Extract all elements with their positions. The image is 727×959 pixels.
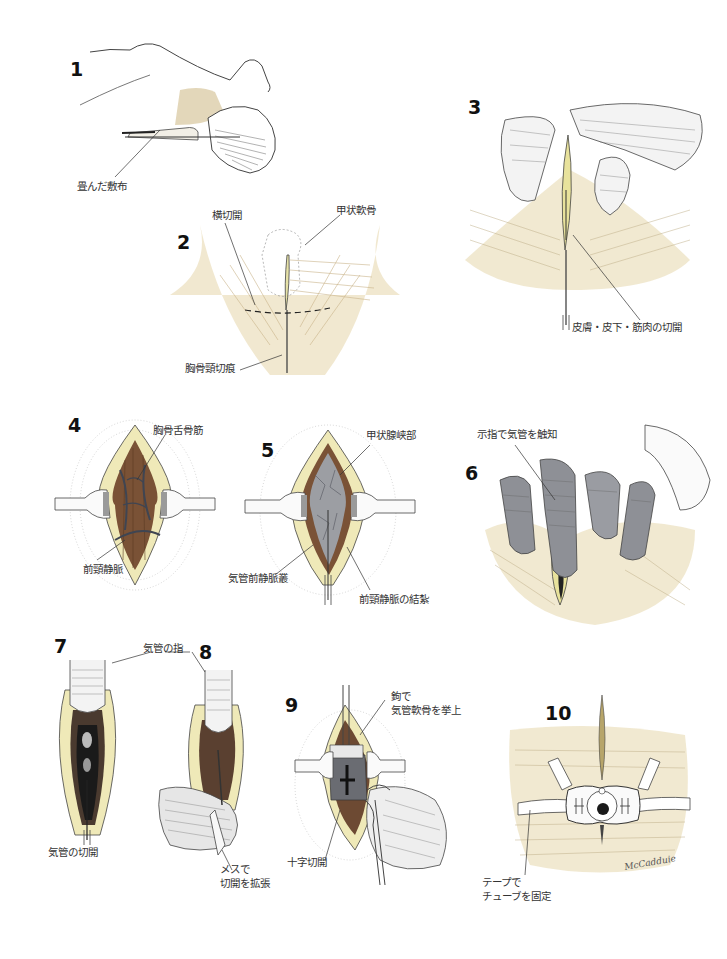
label-lift-tracheal-cartilage: 気管軟骨を挙上 — [391, 704, 461, 718]
label-sternal-notch: 胸骨頸切痕 — [185, 362, 235, 376]
label-extend-incision: 切開を拡張 — [220, 877, 270, 891]
tracheal-incision-illustration — [40, 630, 150, 870]
label-skin-subcutaneous-muscle-incision: 皮膚・皮下・筋肉の切開 — [572, 321, 682, 335]
label-anterior-jugular-vein: 前頸静脈 — [83, 563, 123, 577]
neck-incision-illustration — [160, 195, 430, 385]
sternohyoid-muscle-exposure-illustration — [55, 410, 215, 600]
panel-5: 5 甲状腺峡部 気管前静脈叢 前頸静脈の結紮 — [225, 415, 425, 615]
incision-extension-illustration — [150, 630, 290, 900]
label-thyroid-cartilage: 甲状軟骨 — [336, 204, 376, 218]
patient-position-illustration — [0, 0, 300, 200]
label-thyroid-isthmus: 甲状腺峡部 — [366, 429, 416, 443]
label-cruciate-incision: 十字切開 — [287, 856, 327, 870]
panel-6: 6 示指で気管を触知 — [465, 420, 727, 640]
panel-4: 4 胸骨舌骨筋 前頸静脈 — [55, 410, 215, 600]
label-tape: テープで — [482, 876, 521, 890]
label-folded-sheet: 畳んだ敷布 — [77, 180, 127, 194]
label-anterior-jugular-vein-ligation: 前頸静脈の結紮 — [359, 593, 429, 607]
skin-incision-illustration — [460, 90, 727, 350]
panel-7: 7 気管の切開 — [40, 630, 150, 870]
label-tracheal-finger: 気管の指 — [143, 642, 183, 656]
label-palpate-trachea-with-index-finger: 示指で気管を触知 — [477, 428, 557, 442]
label-sternohyoid-muscle: 胸骨舌骨筋 — [153, 424, 203, 438]
panel-3: 3 皮膚・皮下・筋肉の切開 — [460, 90, 727, 350]
trachea-palpation-illustration — [465, 420, 727, 640]
label-transverse-incision: 横切開 — [212, 209, 242, 223]
label-scalpel: メスで — [220, 863, 250, 877]
panel-1: 1 畳んだ敷布 — [0, 0, 300, 200]
label-hook: 鉤で — [391, 690, 411, 704]
label-tracheal-incision: 気管の切開 — [48, 846, 98, 860]
panel-2: 2 横切開 甲状軟骨 胸骨頸切痕 — [160, 195, 430, 385]
label-pretracheal-venous-plexus: 気管前静脈叢 — [228, 572, 288, 586]
panel-9: 9 鉤で 気管軟骨を挙上 十字切開 — [285, 650, 485, 900]
label-secure-tube: チューブを固定 — [482, 890, 551, 904]
panel-10: 10 McCadduie テープで チューブを固定 — [470, 690, 727, 910]
panel-8: 8 気管の指 メスで 切開を拡張 — [150, 630, 290, 900]
